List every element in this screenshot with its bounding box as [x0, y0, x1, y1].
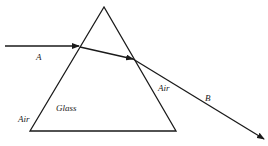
- label-ray-b: B: [205, 94, 211, 103]
- emergent-ray-b: [133, 59, 264, 139]
- refracted-ray-inside: [80, 47, 133, 59]
- label-ray-a: A: [36, 53, 42, 62]
- prism-diagram: A B Glass Air Air: [0, 0, 268, 146]
- label-glass: Glass: [56, 104, 77, 113]
- label-air-left: Air: [18, 115, 30, 124]
- glass-prism: [30, 7, 176, 131]
- diagram-canvas: [0, 0, 268, 146]
- label-air-right: Air: [158, 84, 170, 93]
